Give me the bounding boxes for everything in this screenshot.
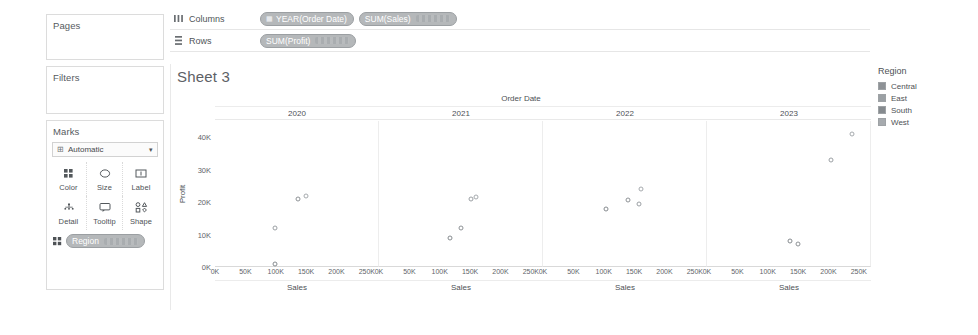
year-header-2020[interactable]: 2020 xyxy=(215,107,379,119)
label-icon xyxy=(133,167,149,181)
legend-item-south[interactable]: South xyxy=(878,104,970,116)
panel-2021[interactable] xyxy=(379,121,543,267)
mark-point[interactable] xyxy=(828,157,833,162)
mark-point[interactable] xyxy=(636,201,641,206)
chevron-down-icon[interactable]: ▾ xyxy=(149,146,153,154)
x-tick-label: 0K xyxy=(539,268,548,275)
color-icon xyxy=(61,167,77,181)
marks-card-title: Marks xyxy=(47,121,163,141)
x-tick-label: 200K xyxy=(820,268,836,275)
mark-point[interactable] xyxy=(458,226,463,231)
panel-2022[interactable] xyxy=(543,121,707,267)
columns-shelf-label: Columns xyxy=(184,14,260,24)
y-tick-label: 0K xyxy=(202,263,211,272)
marks-button-color[interactable]: Color xyxy=(51,162,87,196)
x-axis-ticks: 0K50K100K150K200K250K0K50K100K150K200K25… xyxy=(215,267,871,280)
year-header-2021[interactable]: 2021 xyxy=(379,107,543,119)
rows-shelf-pills: SUM(Profit) xyxy=(260,34,356,48)
mark-point[interactable] xyxy=(273,261,278,266)
mark-point[interactable] xyxy=(273,226,278,231)
legend-swatch xyxy=(878,106,886,114)
pill-sum-profit[interactable]: SUM(Profit) xyxy=(260,34,356,48)
x-tick-label: 100K xyxy=(432,268,448,275)
legend-item-central[interactable]: Central xyxy=(878,80,970,92)
legend-item-label: Central xyxy=(891,82,917,91)
y-tick-label: 40K xyxy=(198,133,211,142)
marks-button-size[interactable]: Size xyxy=(87,162,123,196)
pages-card-title: Pages xyxy=(47,15,163,35)
tableau-worksheet: Pages Filters Marks ⊞ Automatic ▾ xyxy=(0,0,978,335)
panel-2023[interactable] xyxy=(707,121,871,267)
detail-icon xyxy=(61,201,77,215)
mark-type-dropdown[interactable]: ⊞ Automatic ▾ xyxy=(52,142,158,157)
x-tick-label: 50K xyxy=(239,268,251,275)
shelf-sidebar: Pages Filters Marks ⊞ Automatic ▾ xyxy=(46,8,164,298)
marks-button-detail[interactable]: Detail xyxy=(51,196,87,230)
legend-swatch xyxy=(878,82,886,90)
mark-point[interactable] xyxy=(850,131,855,136)
marks-button-tooltip[interactable]: Tooltip xyxy=(87,196,123,230)
marks-button-size-label: Size xyxy=(97,183,112,192)
marks-button-label-label: Label xyxy=(132,183,151,192)
x-axis-title: Sales xyxy=(543,281,707,294)
rows-shelf[interactable]: Rows SUM(Profit) xyxy=(170,30,870,52)
x-tick-label: 0K xyxy=(211,268,220,275)
marks-button-color-label: Color xyxy=(59,183,77,192)
mark-point[interactable] xyxy=(468,196,473,201)
year-header-row: 2020202120222023 xyxy=(215,106,871,120)
x-axis-title: Sales xyxy=(707,281,871,294)
mark-point[interactable] xyxy=(625,198,630,203)
pill-blur-overlay xyxy=(416,15,450,22)
panel-2020[interactable] xyxy=(215,121,379,267)
mark-type-value: Automatic xyxy=(68,145,104,154)
marks-button-shape-label: Shape xyxy=(130,217,152,226)
pill-region[interactable]: Region xyxy=(66,234,145,248)
marks-card[interactable]: Marks ⊞ Automatic ▾ Color xyxy=(46,120,164,290)
y-tick-label: 30K xyxy=(198,165,211,174)
legend-item-east[interactable]: East xyxy=(878,92,970,104)
color-legend[interactable]: Region CentralEastSouthWest xyxy=(878,66,970,128)
pill-sum-sales[interactable]: SUM(Sales) xyxy=(359,12,457,26)
tooltip-icon xyxy=(97,201,113,215)
column-field-label: Order Date xyxy=(171,94,871,103)
y-tick-label: 10K xyxy=(198,230,211,239)
marks-button-tooltip-label: Tooltip xyxy=(93,217,115,226)
mark-point[interactable] xyxy=(295,196,300,201)
x-tick-label: 50K xyxy=(731,268,743,275)
page-title: Sheet 3 xyxy=(177,68,230,85)
columns-icon xyxy=(172,14,184,23)
columns-shelf[interactable]: Columns ▦ YEAR(Order Date) SUM(Sales) xyxy=(170,8,870,30)
viz-canvas[interactable]: Sheet 3 Order Date 2020202120222023 Prof… xyxy=(170,64,870,310)
pill-region-label: Region xyxy=(72,236,99,246)
mark-point[interactable] xyxy=(639,187,644,192)
x-tick-label: 200K xyxy=(656,268,672,275)
x-tick-label: 50K xyxy=(403,268,415,275)
y-axis-ticks: 0K10K20K30K40K xyxy=(185,121,213,267)
plot-area: Profit 0K10K20K30K40K xyxy=(171,121,871,267)
calendar-icon: ▦ xyxy=(266,15,273,23)
year-header-2022[interactable]: 2022 xyxy=(543,107,707,119)
x-tick-label: 150K xyxy=(462,268,478,275)
year-header-2023[interactable]: 2023 xyxy=(707,107,871,119)
y-tick-label: 20K xyxy=(198,198,211,207)
legend-item-label: East xyxy=(891,94,907,103)
filters-card[interactable]: Filters xyxy=(46,66,164,114)
mark-point[interactable] xyxy=(474,195,479,200)
mark-point[interactable] xyxy=(788,239,793,244)
x-tick-label: 150K xyxy=(626,268,642,275)
mark-point[interactable] xyxy=(604,206,609,211)
pill-year-order-date[interactable]: ▦ YEAR(Order Date) xyxy=(260,12,354,26)
pages-card[interactable]: Pages xyxy=(46,14,164,60)
marks-color-encoding-row: Region xyxy=(52,234,158,248)
rows-icon xyxy=(172,36,184,45)
legend-item-west[interactable]: West xyxy=(878,116,970,128)
marks-button-shape[interactable]: Shape xyxy=(123,196,159,230)
legend-title: Region xyxy=(878,66,970,76)
mark-point[interactable] xyxy=(303,193,308,198)
legend-item-label: West xyxy=(891,118,909,127)
mark-point[interactable] xyxy=(448,235,453,240)
x-axis-titles: SalesSalesSalesSales xyxy=(215,280,871,294)
marks-button-label[interactable]: Label xyxy=(123,162,159,196)
pill-year-order-date-label: YEAR(Order Date) xyxy=(276,14,347,24)
mark-point[interactable] xyxy=(796,242,801,247)
